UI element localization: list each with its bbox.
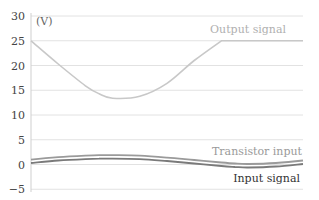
y-tick-label: 15	[11, 84, 25, 97]
y-tick-label: 0	[18, 159, 25, 172]
y-tick-label: 10	[11, 109, 25, 122]
y-tick-label: −5	[9, 183, 25, 196]
y-tick-label: 5	[18, 134, 25, 147]
unit-label: (V)	[36, 15, 53, 28]
transistor-input-label: Transistor input	[212, 145, 303, 158]
y-tick-label: 30	[11, 10, 25, 23]
voltage-chart: 302520151050−5 (V) Output signal Transis…	[0, 0, 319, 200]
input-signal-label: Input signal	[233, 172, 300, 185]
output-signal-label: Output signal	[210, 23, 286, 36]
y-tick-label: 20	[11, 60, 25, 73]
y-tick-labels: 302520151050−5	[9, 10, 25, 196]
y-tick-label: 25	[11, 35, 25, 48]
